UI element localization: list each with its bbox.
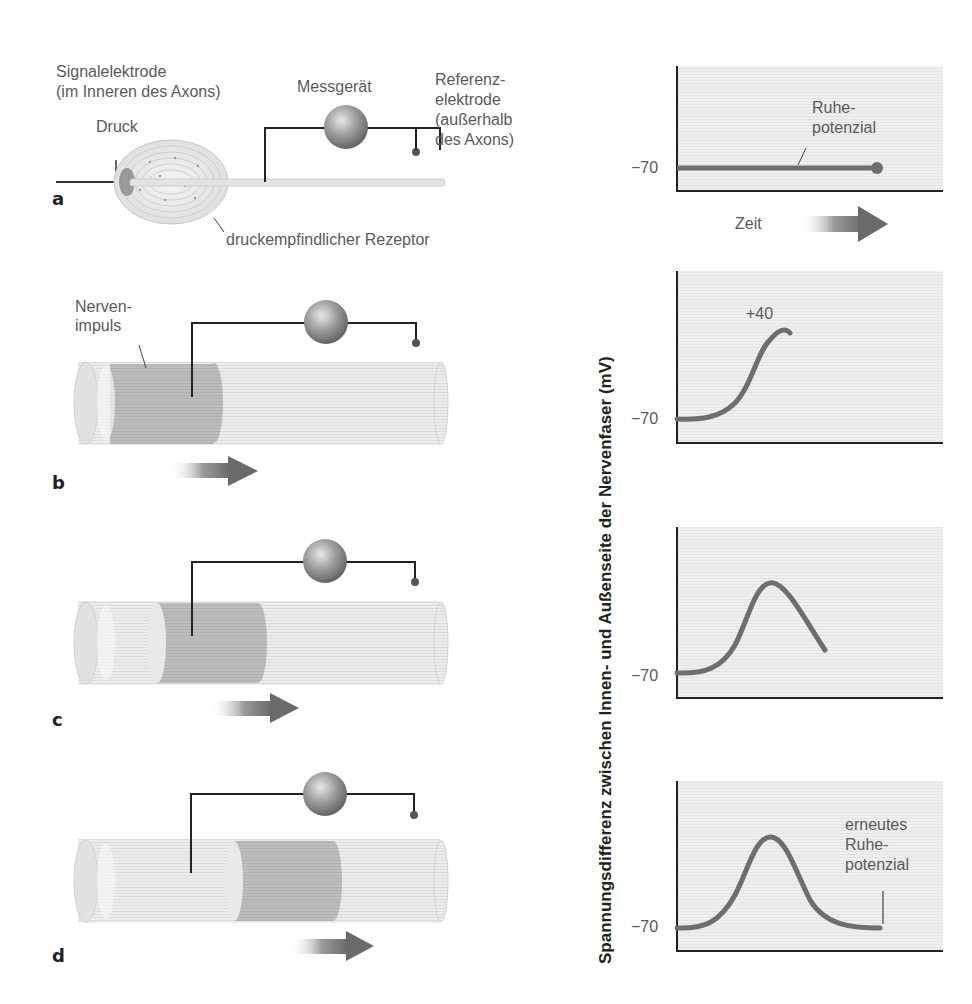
time-arrow bbox=[800, 206, 888, 242]
panel-b-axon bbox=[74, 345, 448, 445]
panel-c-direction-arrow bbox=[210, 693, 299, 723]
panel-letter-c: c bbox=[52, 709, 63, 730]
time-label: Zeit bbox=[735, 214, 762, 234]
signal-electrode-label: Signalelektrode (im Inneren des Axons) bbox=[56, 62, 221, 102]
chart-c-tick-minus70: −70 bbox=[631, 666, 658, 686]
panel-a-receptor bbox=[56, 140, 445, 232]
panel-letter-b: b bbox=[52, 472, 65, 493]
panel-d-direction-arrow bbox=[290, 931, 374, 961]
meter-label: Messgerät bbox=[297, 77, 372, 97]
panel-letter-a: a bbox=[52, 188, 64, 209]
pressure-label: Druck bbox=[96, 117, 138, 137]
chart-a-resting-potential-label: Ruhe- potenzial bbox=[812, 98, 876, 138]
chart-d-new-resting-potential-label: erneutes Ruhe- potenzial bbox=[845, 815, 909, 875]
panel-b-direction-arrow bbox=[170, 456, 258, 486]
chart-a-tick-minus70: −70 bbox=[631, 158, 658, 178]
nerve-impulse-label: Nerven- impuls bbox=[75, 297, 132, 335]
diagram-graphics bbox=[0, 0, 972, 1004]
panel-letter-d: d bbox=[52, 945, 65, 966]
chart-a bbox=[676, 66, 943, 192]
y-axis-label: Spannungsdifferenz zwischen Innen- und A… bbox=[596, 356, 616, 964]
chart-b bbox=[676, 271, 943, 444]
chart-b-peak-label: +40 bbox=[746, 304, 773, 324]
chart-b-tick-minus70: −70 bbox=[631, 409, 658, 429]
panel-c-axon bbox=[74, 601, 448, 685]
panel-a-meter-circuit bbox=[265, 105, 440, 182]
panel-d-axon bbox=[74, 839, 448, 923]
reference-electrode-label: Referenz- elektrode (außerhalb des Axons… bbox=[435, 70, 514, 150]
chart-d-tick-minus70: −70 bbox=[631, 917, 658, 937]
receptor-label: druckempfindlicher Rezeptor bbox=[226, 230, 430, 250]
chart-c bbox=[676, 527, 943, 699]
